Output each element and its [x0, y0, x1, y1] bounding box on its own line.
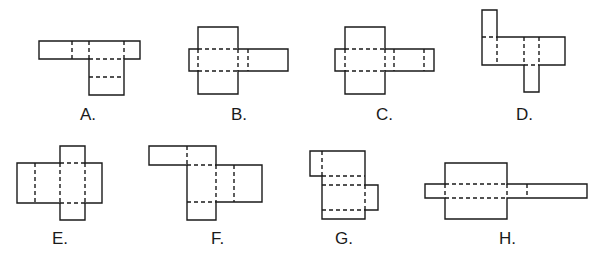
net-figure-c: C. — [335, 27, 434, 124]
figure-label-a: A. — [80, 105, 96, 124]
figure-label-b: B. — [231, 105, 247, 124]
net-figure-f: F. — [149, 146, 262, 248]
net-figure-e: E. — [17, 146, 102, 248]
figure-label-f: F. — [211, 229, 224, 248]
figure-label-e: E. — [52, 229, 68, 248]
net-figure-d: D. — [482, 10, 565, 124]
net-figure-a: A. — [39, 41, 140, 124]
figure-label-c: C. — [376, 105, 393, 124]
net-figure-h: H. — [425, 163, 587, 248]
net-figure-b: B. — [189, 27, 288, 124]
figure-label-g: G. — [335, 229, 353, 248]
nets-diagram: A. B. C. D. E. F. G. H. — [0, 0, 606, 261]
net-figure-g: G. — [310, 151, 378, 248]
figure-label-h: H. — [499, 229, 516, 248]
figure-label-d: D. — [516, 105, 533, 124]
